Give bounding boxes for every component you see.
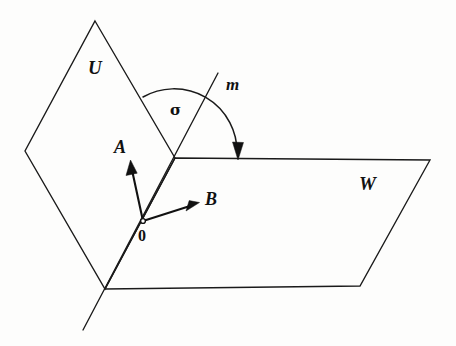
label-line-m: m: [226, 76, 239, 93]
geometry-diagram: [0, 0, 456, 346]
angle-arc-arrowhead: [233, 142, 244, 160]
label-origin: 0: [138, 228, 146, 244]
label-vector-b: B: [205, 190, 217, 208]
figure-root: U W m σ A B 0: [0, 0, 456, 346]
label-vector-a: A: [114, 138, 126, 156]
origin-point: [141, 219, 146, 224]
label-angle-sigma: σ: [170, 103, 181, 118]
label-plane-u: U: [88, 58, 102, 77]
label-plane-w: W: [359, 174, 376, 193]
